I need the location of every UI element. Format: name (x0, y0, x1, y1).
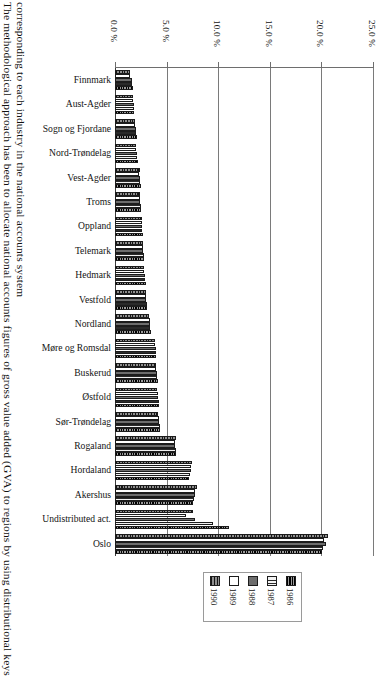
category-label: Akershus (25, 489, 111, 500)
chart-row: Vest-Agder (26, 166, 373, 190)
category-label: Nordland (25, 318, 111, 329)
category-label: Østfold (25, 391, 111, 402)
category-label: Finnmark (25, 74, 111, 85)
category-label: Oppland (25, 220, 111, 231)
bar-group (115, 142, 373, 164)
legend-label-1987: 1987 (266, 588, 276, 605)
chart-row: Undistributed act. (26, 507, 373, 531)
chart-row: Hedmark (26, 263, 373, 287)
category-label: Nord-Trøndelag (25, 147, 111, 158)
legend-label-wrap: 1989 (228, 588, 240, 618)
gridline-250 (373, 68, 374, 556)
bar-group (115, 93, 373, 115)
caption-block: The methodological approach has been to … (0, 0, 26, 656)
category-label: Sogn og Fjordane (25, 123, 111, 134)
legend-label-1990: 1990 (209, 588, 219, 605)
category-label: Hedmark (25, 269, 111, 280)
category-label: Troms (25, 196, 111, 207)
legend-swatch-1990 (210, 576, 220, 586)
bar-1986 (115, 208, 141, 212)
bar-1986 (115, 428, 160, 432)
x-tick-label: 20.0 % (313, 20, 325, 66)
category-label: Telemark (25, 245, 111, 256)
bar-group (115, 191, 373, 213)
category-label: Vest-Agder (25, 172, 111, 183)
bar-group (115, 386, 373, 408)
category-label: Undistributed act. (25, 513, 111, 524)
category-label: Sør-Trøndelag (25, 416, 111, 427)
bar-1986 (115, 404, 159, 408)
legend-item-1988[interactable]: 1988 (246, 576, 259, 618)
category-label: Rogaland (25, 440, 111, 451)
x-tick-label: 15.0 % (262, 20, 274, 66)
bar-1986 (115, 477, 189, 481)
bar-1986 (115, 233, 143, 237)
bar-1986 (115, 184, 141, 188)
chart-row: Finnmark (26, 68, 373, 92)
bar-group (115, 337, 373, 359)
bar-1986 (115, 355, 156, 359)
legend-swatch-1988 (248, 576, 258, 586)
bar-1986 (115, 379, 158, 383)
chart-row: Rogaland (26, 434, 373, 458)
chart-row: Møre og Romsdal (26, 336, 373, 360)
category-label: Buskerud (25, 367, 111, 378)
x-tick-label: 25.0 % (365, 20, 377, 66)
x-tick-label: 10.0 % (210, 20, 222, 66)
x-tick-label: 0.0 % (107, 20, 119, 66)
category-label: Vestfold (25, 294, 111, 305)
bar-1986 (115, 135, 137, 139)
bar-group (115, 289, 373, 311)
legend-label-wrap: 1986 (285, 588, 297, 618)
chart-row: Nord-Trøndelag (26, 141, 373, 165)
chart-row: Oslo (26, 532, 373, 556)
legend-item-1989[interactable]: 1989 (227, 576, 240, 618)
legend-item-1990[interactable]: 1990 (208, 576, 221, 618)
bar-1986 (115, 86, 133, 90)
chart-row: Buskerud (26, 361, 373, 385)
chart-row: Vestfold (26, 288, 373, 312)
bar-group (115, 118, 373, 140)
bar-group (115, 533, 373, 555)
bar-group (115, 484, 373, 506)
bar-group (115, 240, 373, 262)
legend-label-wrap: 1988 (247, 588, 259, 618)
legend-item-1986[interactable]: 1986 (284, 576, 297, 618)
chart-row: Nordland (26, 312, 373, 336)
bar-1986 (115, 282, 146, 286)
bar-1986 (115, 306, 147, 310)
bar-group (115, 435, 373, 457)
x-tick-label: 5.0 % (159, 20, 171, 66)
chart-row: Oppland (26, 214, 373, 238)
legend-swatch-1986 (286, 576, 296, 586)
legend-label-1988: 1988 (247, 588, 257, 605)
bar-1986 (115, 330, 151, 334)
legend-label-1986: 1986 (285, 588, 295, 605)
chart-row: Aust-Agder (26, 92, 373, 116)
bar-1986 (115, 526, 229, 530)
bar-group (115, 167, 373, 189)
category-label: Møre og Romsdal (25, 342, 111, 353)
chart-row: Sogn og Fjordane (26, 117, 373, 141)
legend-item-1987[interactable]: 1987 (265, 576, 278, 618)
bar-group (115, 362, 373, 384)
legend-swatch-1987 (267, 576, 277, 586)
bar-group (115, 264, 373, 286)
bar-group (115, 215, 373, 237)
bar-1986 (115, 550, 322, 554)
caption-line-1: The methodological approach has been to … (0, 2, 14, 658)
chart-row: Telemark (26, 239, 373, 263)
chart-row: Hordaland (26, 458, 373, 482)
chart-row: Østfold (26, 385, 373, 409)
bar-group (115, 313, 373, 335)
legend-label-wrap: 1987 (266, 588, 278, 618)
chart-legend: 19901989198819871986 (203, 572, 302, 622)
chart-row: Sør-Trøndelag (26, 410, 373, 434)
category-label: Hordaland (25, 464, 111, 475)
bar-1986 (115, 111, 134, 115)
bar-group (115, 411, 373, 433)
bar-chart: 0.0 %5.0 %10.0 %15.0 %20.0 %25.0 % Finnm… (26, 0, 373, 656)
legend-label-1989: 1989 (228, 588, 238, 605)
bar-group (115, 508, 373, 530)
bar-1986 (115, 501, 193, 505)
